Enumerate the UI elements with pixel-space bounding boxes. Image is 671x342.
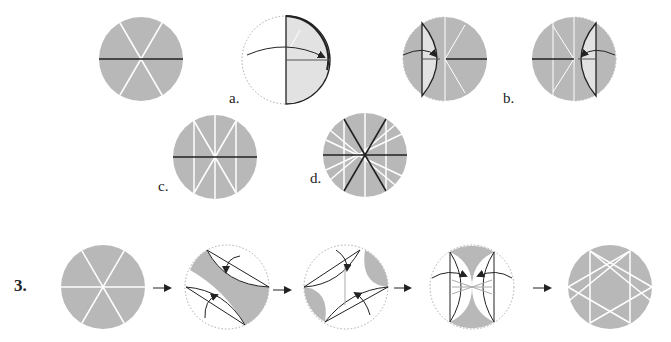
- figure-c: [173, 115, 257, 199]
- figure-top-1: [99, 17, 183, 101]
- figure-d: [323, 113, 407, 197]
- label-c: c.: [158, 178, 168, 195]
- diagram-canvas: [0, 0, 671, 342]
- step-number: 3.: [14, 276, 27, 296]
- figure-b-left: [403, 17, 487, 101]
- label-a: a.: [229, 90, 239, 107]
- label-b: b.: [503, 90, 514, 107]
- figure-b-right: [532, 17, 616, 101]
- figure-a: [242, 16, 330, 104]
- figure-s3-2: [185, 245, 269, 329]
- figure-s3-1: [61, 245, 145, 329]
- figure-s3-3: [304, 245, 388, 329]
- figure-s3-5: [568, 245, 652, 329]
- figure-s3-4: [430, 245, 514, 329]
- label-d: d.: [310, 170, 321, 187]
